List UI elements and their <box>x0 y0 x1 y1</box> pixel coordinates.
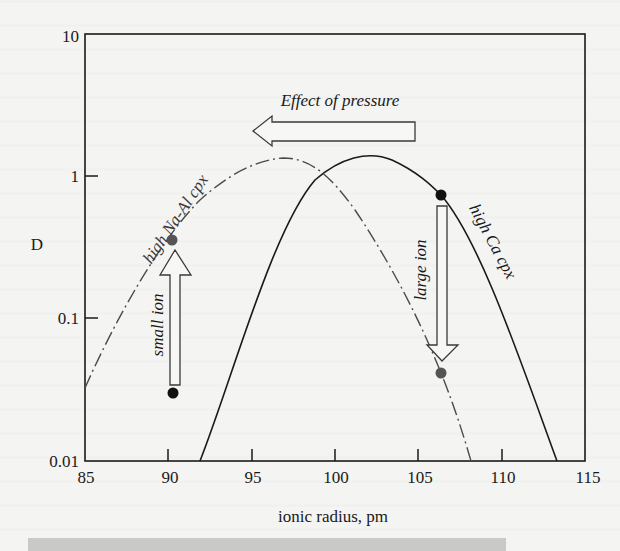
data-point-large-ion-naal <box>436 368 447 379</box>
data-point-small-ion-naal <box>167 235 178 246</box>
data-point-large-ion-ca <box>436 190 447 201</box>
large-ion-arrow <box>427 206 458 361</box>
effect-of-pressure-label: Effect of pressure <box>280 91 400 110</box>
y-axis-title: D <box>31 235 43 254</box>
effect-of-pressure-arrow <box>253 116 415 146</box>
high-ca-cpx-label: high Ca cpx <box>465 201 521 283</box>
x-tick-85: 85 <box>78 468 95 487</box>
x-tick-110: 110 <box>491 468 516 487</box>
large-ion-label: large ion <box>411 239 430 300</box>
x-axis-title: ionic radius, pm <box>278 507 388 526</box>
data-point-small-ion-ca <box>168 388 179 399</box>
x-tick-90: 90 <box>162 468 179 487</box>
high-naal-cpx-curve <box>85 158 471 461</box>
x-axis-ticks <box>168 449 502 461</box>
y-tick-0-01: 0.01 <box>49 452 79 471</box>
y-axis-ticks <box>85 176 98 318</box>
partition-coefficient-chart: 10 1 0.1 0.01 85 90 95 100 105 110 115 D… <box>0 0 620 551</box>
y-tick-1: 1 <box>71 167 80 186</box>
x-tick-105: 105 <box>407 468 433 487</box>
high-ca-cpx-curve <box>200 156 557 461</box>
small-ion-label: small ion <box>148 294 167 357</box>
x-tick-95: 95 <box>245 468 262 487</box>
y-tick-10: 10 <box>62 27 79 46</box>
x-tick-100: 100 <box>323 468 349 487</box>
y-tick-0-1: 0.1 <box>58 309 79 328</box>
x-tick-115: 115 <box>576 468 601 487</box>
